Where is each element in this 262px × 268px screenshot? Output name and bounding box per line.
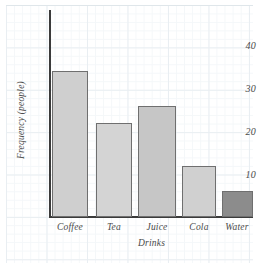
bar-juice[interactable]: [138, 106, 176, 217]
x-tick-label-tea: Tea: [94, 222, 134, 232]
y-axis-title: Frequency (people): [16, 70, 26, 170]
bar-tea[interactable]: [96, 123, 132, 217]
bar-chart-figure: Frequency (people) 40 30 20 10 Coffee Te…: [0, 0, 262, 268]
plot-area: Frequency (people) 40 30 20 10 Coffee Te…: [0, 0, 262, 268]
x-tick-label-water: Water: [217, 222, 257, 232]
bar-coffee[interactable]: [52, 71, 88, 217]
x-tick-label-juice: Juice: [137, 222, 177, 232]
x-axis-title: Drinks: [50, 238, 253, 248]
bar-cola[interactable]: [182, 166, 216, 217]
bar-water[interactable]: [222, 191, 253, 217]
bars-container: [50, 10, 253, 217]
x-tick-label-cola: Cola: [179, 222, 219, 232]
x-tick-label-coffee: Coffee: [50, 222, 90, 232]
